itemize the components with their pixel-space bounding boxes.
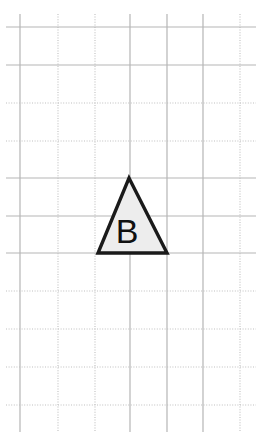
shape-label-letter: B: [116, 212, 139, 250]
diagram-canvas: B: [0, 0, 258, 437]
shape-triangle-b[interactable]: B: [98, 178, 167, 253]
shape-layer: B: [0, 0, 258, 437]
